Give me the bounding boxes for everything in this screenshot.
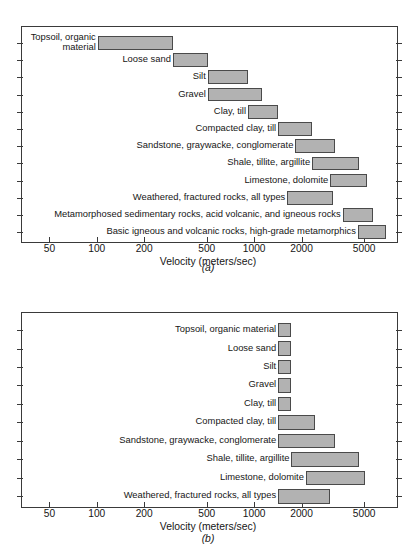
- velocity-range-bar: [278, 378, 291, 393]
- bar-category-label: Sandstone, graywacke, conglomerate: [119, 435, 276, 446]
- y-tick-mark-right: [396, 496, 402, 497]
- x-tick-label: 200: [136, 508, 153, 519]
- y-tick-mark-left: [17, 112, 23, 113]
- y-tick-mark-left: [17, 422, 23, 423]
- bar-category-label: Limestone, dolomite: [220, 472, 304, 483]
- bar-category-label: Silt: [263, 361, 276, 372]
- bar-category-label: Metamorphosed sedimentary rocks, acid vo…: [54, 209, 341, 220]
- bar-category-label: Shale, tillite, argillite: [207, 453, 290, 464]
- velocity-range-bar: [98, 36, 173, 50]
- velocity-range-bar: [287, 191, 332, 205]
- bar-category-label: Clay, till: [214, 105, 246, 116]
- y-tick-mark-left: [17, 77, 23, 78]
- x-tick-label: 50: [44, 508, 55, 519]
- y-tick-mark-left: [17, 163, 23, 164]
- velocity-range-bar: [295, 139, 334, 153]
- bar-category-label: Compacted clay, till: [196, 416, 277, 427]
- velocity-range-bar: [173, 53, 208, 67]
- y-tick-mark-right: [396, 60, 402, 61]
- velocity-range-bar: [312, 157, 359, 171]
- y-tick-mark-right: [396, 459, 402, 460]
- bar-category-label: Loose sand: [122, 54, 170, 65]
- velocity-range-bar: [278, 341, 291, 356]
- y-tick-mark-left: [17, 367, 23, 368]
- y-tick-mark-right: [396, 112, 402, 113]
- y-tick-mark-left: [17, 404, 23, 405]
- velocity-range-bar: [278, 489, 330, 504]
- y-tick-mark-right: [396, 478, 402, 479]
- velocity-range-bar: [278, 415, 315, 430]
- y-tick-mark-right: [396, 77, 402, 78]
- y-tick-mark-right: [396, 385, 402, 386]
- bar-category-label: Sandstone, graywacke, conglomerate: [136, 140, 293, 151]
- y-tick-mark-left: [17, 129, 23, 130]
- x-tick-label: 200: [136, 243, 153, 254]
- y-tick-mark-left: [17, 349, 23, 350]
- bar-category-label: Weathered, fractured rocks, all types: [133, 192, 286, 203]
- y-tick-mark-right: [396, 367, 402, 368]
- y-tick-mark-left: [17, 95, 23, 96]
- y-tick-mark-left: [17, 441, 23, 442]
- y-tick-mark-left: [17, 385, 23, 386]
- bar-category-label: Compacted clay, till: [196, 123, 277, 134]
- bar-category-label: Limestone, dolomite: [244, 174, 328, 185]
- y-tick-mark-left: [17, 478, 23, 479]
- velocity-range-bar: [306, 471, 365, 486]
- y-tick-mark-left: [17, 459, 23, 460]
- bar-category-label: Weathered, fractured rocks, all types: [124, 490, 277, 501]
- x-tick-label: 5000: [353, 243, 376, 254]
- y-tick-mark-left: [17, 181, 23, 182]
- bar-category-label: Gravel: [178, 88, 206, 99]
- y-tick-mark-left: [17, 146, 23, 147]
- y-tick-mark-right: [396, 43, 402, 44]
- y-tick-mark-right: [396, 163, 402, 164]
- velocity-range-bar: [278, 434, 335, 449]
- velocity-range-bar: [278, 360, 291, 375]
- x-tick-label: 50: [44, 243, 55, 254]
- x-tick-label: 5000: [353, 508, 376, 519]
- velocity-range-bar: [278, 122, 312, 136]
- y-tick-mark-right: [396, 198, 402, 199]
- bar-category-label: Topsoil, organic material: [18, 32, 96, 52]
- panel-caption-a: (a): [0, 262, 416, 273]
- velocity-range-bar: [208, 70, 248, 84]
- y-tick-mark-left: [17, 198, 23, 199]
- x-tick-labels-a: 50100200500100020005000: [0, 243, 416, 255]
- velocity-range-bar: [208, 88, 262, 102]
- y-tick-mark-right: [396, 181, 402, 182]
- y-tick-mark-right: [396, 330, 402, 331]
- plot-area-b: [21, 312, 398, 508]
- velocity-range-bar: [291, 452, 359, 467]
- x-tick-label: 2000: [290, 243, 313, 254]
- x-tick-label: 1000: [243, 508, 266, 519]
- y-tick-mark-right: [396, 404, 402, 405]
- x-tick-label: 100: [88, 243, 105, 254]
- panel-a: 50100200500100020005000 Velocity (meters…: [0, 0, 416, 280]
- panel-b: 50100200500100020005000 Velocity (meters…: [0, 280, 416, 552]
- x-tick-labels-b: 50100200500100020005000: [0, 508, 416, 520]
- bar-category-label: Shale, tillite, argillite: [227, 157, 310, 168]
- y-tick-mark-right: [396, 146, 402, 147]
- x-tick-label: 500: [198, 508, 215, 519]
- velocity-range-bar: [343, 208, 373, 222]
- y-tick-mark-right: [396, 129, 402, 130]
- velocity-range-bar: [248, 105, 278, 119]
- y-tick-mark-left: [17, 60, 23, 61]
- x-tick-label: 2000: [290, 508, 313, 519]
- y-tick-mark-left: [17, 232, 23, 233]
- y-tick-mark-left: [17, 215, 23, 216]
- y-tick-mark-right: [396, 232, 402, 233]
- velocity-range-bar: [358, 225, 386, 239]
- x-axis-title-b: Velocity (meters/sec): [0, 521, 416, 532]
- bar-category-label: Clay, till: [244, 398, 276, 409]
- bar-category-label: Gravel: [249, 379, 277, 390]
- x-tick-label: 500: [198, 243, 215, 254]
- y-tick-mark-left: [17, 330, 23, 331]
- bar-category-label: Topsoil, organic material: [175, 324, 276, 335]
- y-tick-mark-left: [17, 496, 23, 497]
- velocity-range-bar: [278, 397, 291, 412]
- velocity-range-bar: [330, 174, 366, 188]
- y-tick-mark-right: [396, 422, 402, 423]
- y-tick-mark-right: [396, 95, 402, 96]
- y-tick-mark-right: [396, 215, 402, 216]
